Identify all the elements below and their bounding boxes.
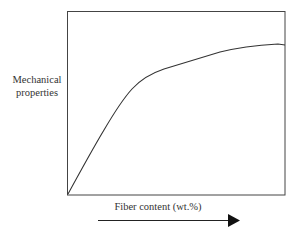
- y-axis-label: Mechanical properties: [8, 73, 66, 99]
- x-arrow-head-icon: [228, 214, 240, 227]
- y-axis-label-line1: Mechanical: [8, 73, 66, 86]
- y-axis-label-line2: properties: [8, 86, 66, 99]
- data-curve: [68, 44, 285, 194]
- x-axis-label: Fiber content (wt.%): [98, 201, 218, 212]
- plot-frame: [68, 12, 286, 196]
